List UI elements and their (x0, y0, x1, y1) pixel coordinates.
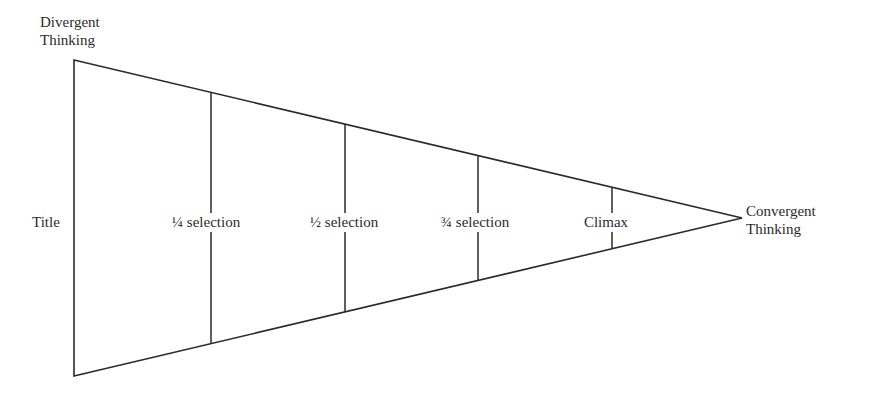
stage-title-label: Title (32, 213, 60, 232)
stage-quarter-selection-label: ¼ selection (169, 213, 243, 232)
convergent-thinking-label: Convergent Thinking (746, 202, 816, 238)
funnel-diagram (0, 0, 869, 396)
divergent-thinking-label: Divergent Thinking (40, 13, 100, 49)
convergent-line1: Convergent (746, 202, 816, 220)
stage-three-quarter-selection-label: ¾ selection (438, 213, 512, 232)
stage-climax-label: Climax (581, 213, 631, 232)
stage-half-selection-label: ½ selection (307, 213, 381, 232)
divergent-line1: Divergent (40, 13, 100, 31)
divergent-line2: Thinking (40, 31, 100, 49)
convergent-line2: Thinking (746, 220, 816, 238)
